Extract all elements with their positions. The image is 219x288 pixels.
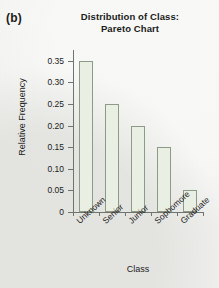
y-axis-tick-label: 0.30: [34, 78, 64, 87]
y-axis-tick-label: 0: [34, 208, 64, 217]
bar-series: [73, 50, 203, 212]
x-axis-category-labels: UnknownSeniorJuniorSophomoreGraduate: [73, 213, 209, 261]
y-axis-tick-mark: [68, 190, 73, 191]
y-axis-tick-label: 0.25: [34, 100, 64, 109]
x-axis-tick-mark: [177, 212, 178, 216]
y-axis-tick-mark: [68, 147, 73, 148]
y-axis-tick-labels: 00.050.100.150.200.250.300.35: [32, 0, 64, 288]
bar-senior: [105, 104, 119, 212]
y-axis-tick-label: 0.20: [34, 121, 64, 130]
x-axis-tick-mark: [73, 212, 74, 216]
y-axis-tick-mark: [68, 82, 73, 83]
y-axis-tick-mark: [68, 169, 73, 170]
y-axis-tick-label: 0.15: [34, 143, 64, 152]
x-axis-tick-mark: [125, 212, 126, 216]
bar-unknown: [79, 61, 93, 212]
bar-junior: [131, 126, 145, 212]
y-axis-title: Relative Frequency: [17, 57, 27, 177]
pareto-chart-plot: Relative Frequency 00.050.100.150.200.25…: [0, 0, 219, 288]
y-axis-tick-mark: [68, 61, 73, 62]
y-axis-tick-label: 0.35: [34, 57, 64, 66]
y-axis-tick-mark: [68, 104, 73, 105]
y-axis-tick-label: 0.05: [34, 186, 64, 195]
x-axis-tick-mark: [151, 212, 152, 216]
x-axis-title: Class: [73, 264, 203, 274]
y-axis-tick-label: 0.10: [34, 165, 64, 174]
y-axis-tick-mark: [68, 126, 73, 127]
x-axis-tick-mark: [99, 212, 100, 216]
x-axis-tick-mark: [203, 212, 204, 216]
